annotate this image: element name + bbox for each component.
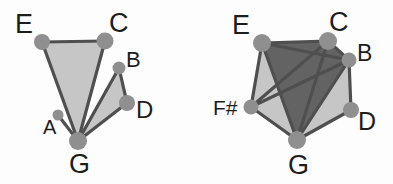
node-D[interactable] (343, 102, 359, 118)
node-label-B: B (357, 40, 372, 66)
node-label-E: E (232, 10, 250, 40)
node-D[interactable] (119, 95, 135, 111)
edge-E-C (42, 41, 105, 42)
graphs-svg: ECBDAGECBDGF# (0, 0, 393, 184)
node-label-C: C (329, 7, 349, 37)
diagram-canvas: ECBDAGECBDGF# (0, 0, 393, 184)
edge-E-C (262, 41, 328, 43)
node-label-D: D (358, 107, 376, 135)
node-label-C: C (109, 8, 129, 38)
node-label-B: B (126, 47, 141, 72)
node-label-A: A (43, 116, 57, 138)
node-label-G: G (69, 149, 90, 179)
node-label-D: D (136, 96, 153, 123)
node-E[interactable] (34, 34, 50, 50)
node-label-F#: F# (213, 96, 238, 119)
node-G[interactable] (288, 131, 306, 149)
node-B[interactable] (113, 62, 126, 75)
node-F#[interactable] (244, 100, 259, 115)
node-G[interactable] (69, 132, 87, 150)
node-E[interactable] (253, 34, 271, 52)
node-label-G: G (288, 150, 309, 180)
node-B[interactable] (342, 53, 357, 68)
node-label-E: E (15, 9, 33, 39)
